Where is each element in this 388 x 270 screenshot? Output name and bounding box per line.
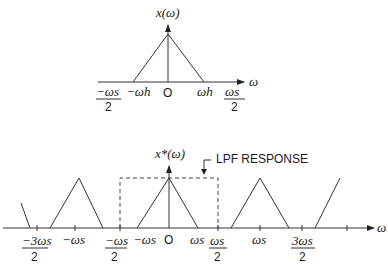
lpf-annotation-arrow-icon — [201, 169, 207, 175]
lpf-annotation-label: LPF RESPONSE — [216, 152, 308, 166]
top-y-label: x(ω) — [155, 5, 180, 20]
svg-text:ωs: ωs — [210, 233, 224, 248]
bottom-sampled-spectrum-plot: LPF RESPONSE x*(ω) ω −3ωs 2 −ωs −ωs 2 −ω… — [3, 146, 386, 264]
svg-text:2: 2 — [299, 250, 306, 264]
partial-spectrum-left — [21, 203, 30, 228]
tick-label-ws: ωs — [252, 232, 266, 247]
tick-label-neg-ws: −ωs — [62, 232, 85, 247]
svg-text:−ωs: −ωs — [96, 84, 119, 99]
top-x-label: ω — [249, 74, 258, 89]
tick-label-ws-half: ωs 2 — [209, 233, 227, 264]
top-tick-pos-wh: ωh — [197, 84, 213, 99]
svg-text:2: 2 — [31, 250, 38, 264]
tick-label-neg-ws-inner: −ωs — [133, 232, 156, 247]
tick-label-3ws-half: 3ωs 2 — [291, 233, 315, 264]
bottom-x-label: ω — [377, 220, 386, 235]
svg-text:2: 2 — [231, 100, 238, 114]
bottom-y-label: x*(ω) — [154, 146, 185, 161]
top-spectrum-plot: x(ω) ω −ωh O ωh −ωs 2 ωs 2 — [96, 5, 258, 114]
svg-text:−ωs: −ωs — [105, 233, 128, 248]
svg-text:2: 2 — [105, 100, 112, 114]
svg-text:ωs: ωs — [225, 84, 239, 99]
tick-label-neg-3ws-half: −3ωs 2 — [22, 233, 52, 264]
spectrum-copy-pos-ws — [231, 178, 289, 228]
tick-label-origin: O — [164, 233, 173, 247]
svg-text:2: 2 — [214, 250, 221, 264]
top-tick-neg-wh: −ωh — [126, 84, 150, 99]
tick-label-neg-ws-half: −ωs 2 — [105, 233, 128, 264]
top-frac-right: ωs 2 — [224, 84, 245, 114]
diagram-canvas: x(ω) ω −ωh O ωh −ωs 2 ωs 2 — [0, 0, 388, 270]
tick-label-ws-inner: ωs — [190, 232, 204, 247]
svg-text:−3ωs: −3ωs — [22, 233, 52, 248]
top-frac-left: −ωs 2 — [96, 84, 121, 114]
spectrum-baseband — [137, 178, 198, 228]
top-tick-origin: O — [163, 86, 172, 100]
svg-text:3ωs: 3ωs — [291, 233, 313, 248]
partial-spectrum-right — [315, 178, 340, 228]
svg-text:2: 2 — [111, 250, 118, 264]
spectrum-copy-neg-ws — [50, 178, 103, 228]
